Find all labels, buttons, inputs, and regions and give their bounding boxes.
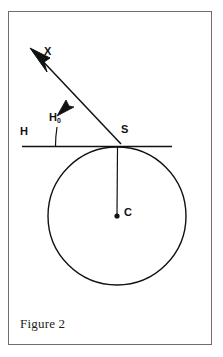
- label-angle-h0-main: H: [49, 111, 57, 123]
- figure-caption: Figure 2: [20, 316, 65, 332]
- label-horizon-h: H: [20, 126, 28, 137]
- label-ray-x: X: [44, 46, 51, 57]
- label-tangent-point-s: S: [121, 124, 128, 135]
- radius-line: [117, 147, 118, 214]
- center-point-dot: [114, 213, 119, 218]
- label-angle-h0: H0: [49, 112, 61, 123]
- angle-tick-mark: [56, 127, 58, 146]
- label-center-c: C: [124, 207, 132, 218]
- label-angle-h0-subscript: 0: [57, 117, 61, 124]
- figure-page: X H0 H S C Figure 2: [0, 0, 223, 357]
- ray-x-line: [36, 54, 121, 144]
- geometry-diagram: [0, 0, 223, 357]
